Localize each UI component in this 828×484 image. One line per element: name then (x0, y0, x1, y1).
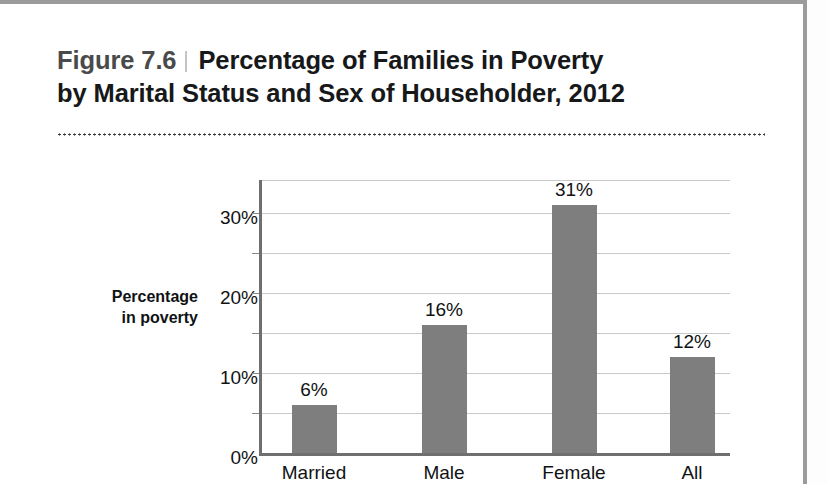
gridline-top (262, 180, 730, 181)
y-axis-title-line-2: in poverty (48, 307, 198, 328)
y-tick-label-20: 20% (170, 288, 258, 307)
y-tick-mark-30 (252, 213, 259, 214)
gridline-25 (262, 253, 730, 254)
x-tick-label-male: Male (369, 462, 519, 484)
gridline-10 (262, 373, 730, 374)
bar-label-all: 12% (652, 332, 732, 351)
y-tick-mark-20 (252, 293, 259, 294)
y-tick-mark-15 (252, 333, 259, 334)
gridline-20 (262, 293, 730, 294)
y-tick-mark-5 (252, 413, 259, 414)
bar-male[interactable] (422, 325, 467, 453)
bar-label-married: 6% (274, 380, 354, 399)
bar-label-female: 31% (534, 180, 614, 199)
bar-female[interactable] (552, 205, 597, 453)
y-tick-label-10: 10% (170, 368, 258, 387)
figure-page: Figure 7.6Percentage of Families in Pove… (0, 0, 828, 484)
y-tick-label-30: 30% (170, 208, 258, 227)
y-tick-mark-25 (252, 253, 259, 254)
gridline-30 (262, 213, 730, 214)
plot-area: 6% 16% 31% 12% (259, 180, 730, 456)
y-axis-line (259, 180, 262, 456)
x-tick-label-all: All (617, 462, 767, 484)
bar-chart: Percentage in poverty 0% 10% 20% 30% (0, 0, 828, 484)
bar-label-male: 16% (404, 300, 484, 319)
y-tick-mark-10 (252, 373, 259, 374)
x-axis-baseline (259, 453, 730, 456)
x-tick-label-married: Married (239, 462, 389, 484)
bar-all[interactable] (670, 357, 715, 453)
bar-married[interactable] (292, 405, 337, 453)
